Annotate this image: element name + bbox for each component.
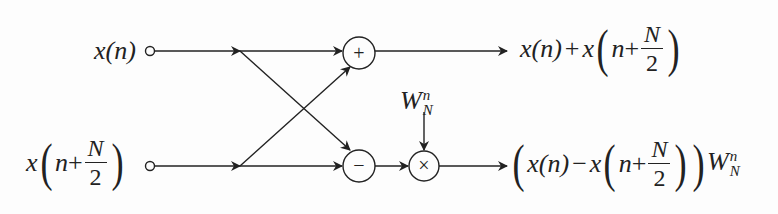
twiddle-label: W n N bbox=[400, 88, 433, 118]
subtractor-symbol: − bbox=[353, 154, 364, 176]
edge-bottom-to-adder bbox=[240, 67, 350, 166]
input-node-bottom bbox=[146, 162, 155, 171]
edge-top-to-subtractor bbox=[240, 51, 350, 150]
output-label-bottom: ( x(n) − x ( n + N 2 )) W n N bbox=[510, 137, 740, 190]
input-label-bottom: x ( n + N 2 ) bbox=[26, 136, 126, 189]
input-bottom-func: x bbox=[26, 150, 38, 176]
fraction: N 2 bbox=[85, 136, 107, 189]
butterfly-diagram: + − × x(n) x ( n + N 2 ) W n N x(n) + x … bbox=[0, 0, 778, 214]
input-label-top: x(n) bbox=[94, 38, 136, 64]
output-label-top: x(n) + x ( n + N 2 ) bbox=[520, 22, 682, 75]
adder-symbol: + bbox=[353, 42, 364, 64]
output-twiddle: W n N bbox=[707, 149, 740, 179]
multiplier-symbol: × bbox=[418, 154, 429, 176]
input-node-top bbox=[146, 47, 155, 56]
